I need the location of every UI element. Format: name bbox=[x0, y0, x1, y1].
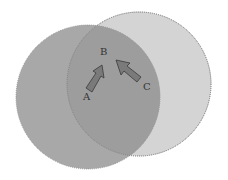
label-b: B bbox=[100, 46, 107, 57]
label-c: C bbox=[143, 81, 151, 92]
label-a: A bbox=[82, 91, 91, 102]
venn-diagram: A B C bbox=[0, 0, 228, 180]
